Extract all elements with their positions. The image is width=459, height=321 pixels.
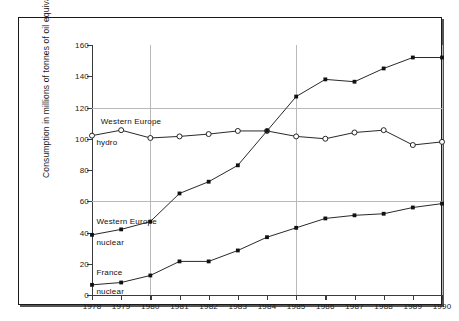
data-point-filled-square bbox=[265, 235, 269, 239]
x-tick-label: 1983 bbox=[229, 302, 248, 311]
y-tick-label: 100 bbox=[75, 134, 89, 143]
x-tick-mark bbox=[267, 295, 268, 300]
data-point-filled-square bbox=[119, 227, 123, 231]
x-tick-label: 1988 bbox=[374, 302, 393, 311]
data-point-filled-square bbox=[119, 281, 123, 285]
x-tick-label: 1989 bbox=[404, 302, 423, 311]
data-point-open-circle bbox=[410, 143, 415, 148]
data-point-filled-square bbox=[411, 56, 415, 60]
x-tick-label: 1990 bbox=[433, 302, 452, 311]
chart-screenshot: Consumption in millions of tonnes of oil… bbox=[0, 0, 459, 321]
data-point-filled-square bbox=[440, 56, 444, 60]
data-point-open-circle bbox=[206, 132, 211, 137]
data-point-filled-square bbox=[382, 67, 386, 71]
data-point-open-circle bbox=[177, 134, 182, 139]
data-point-filled-square bbox=[294, 95, 298, 99]
data-point-filled-square bbox=[178, 260, 182, 264]
data-point-filled-square bbox=[323, 217, 327, 221]
ann-fr-nuclear-line2: nuclear bbox=[96, 287, 124, 296]
data-point-filled-square bbox=[353, 80, 357, 84]
x-tick-label: 1978 bbox=[83, 302, 102, 311]
y-tick-label: 120 bbox=[75, 103, 89, 112]
series-france-nuclear bbox=[90, 202, 444, 287]
data-point-filled-square bbox=[353, 213, 357, 217]
x-tick-mark bbox=[355, 295, 356, 300]
plot-area: 020406080100120140160 197819791980198119… bbox=[92, 45, 442, 295]
data-point-open-circle bbox=[440, 139, 445, 144]
ann-we-hydro-line1: Western Europe bbox=[101, 117, 161, 126]
x-tick-mark bbox=[413, 295, 414, 300]
y-tick-label: 20 bbox=[80, 259, 89, 268]
figure-frame: Consumption in millions of tonnes of oil… bbox=[18, 17, 442, 305]
y-tick-label: 80 bbox=[80, 166, 89, 175]
x-tick-label: 1981 bbox=[170, 302, 189, 311]
x-tick-mark bbox=[325, 295, 326, 300]
data-point-filled-square bbox=[207, 180, 211, 184]
data-point-open-circle bbox=[90, 133, 95, 138]
series-western-europe-nuclear bbox=[90, 56, 444, 237]
data-point-filled-square bbox=[90, 283, 94, 287]
data-point-filled-square bbox=[440, 202, 444, 206]
data-series-layer bbox=[92, 45, 442, 295]
x-tick-label: 1979 bbox=[112, 302, 131, 311]
x-tick-mark bbox=[296, 295, 297, 300]
data-point-filled-square bbox=[148, 274, 152, 278]
data-point-filled-square bbox=[294, 226, 298, 230]
data-point-filled-square bbox=[236, 249, 240, 253]
data-point-filled-square bbox=[411, 206, 415, 210]
y-tick-label: 0 bbox=[84, 291, 89, 300]
ann-fr-nuclear-line1: France bbox=[96, 268, 122, 277]
x-tick-mark bbox=[92, 295, 93, 300]
data-point-open-circle bbox=[352, 130, 357, 135]
data-point-filled-square bbox=[236, 163, 240, 167]
data-point-open-circle bbox=[294, 134, 299, 139]
y-tick-label: 40 bbox=[80, 228, 89, 237]
x-tick-label: 1986 bbox=[316, 302, 335, 311]
y-tick-label: 60 bbox=[80, 197, 89, 206]
data-point-filled-square bbox=[207, 260, 211, 264]
x-tick-mark bbox=[442, 295, 443, 300]
x-tick-mark bbox=[150, 295, 151, 300]
ann-we-hydro-line2: hydro bbox=[96, 138, 117, 147]
data-point-open-circle bbox=[119, 128, 124, 133]
x-tick-mark bbox=[384, 295, 385, 300]
data-point-open-circle bbox=[148, 135, 153, 140]
data-point-filled-square bbox=[178, 192, 182, 196]
ann-we-nuclear-line1: Western Europe bbox=[96, 217, 156, 226]
data-point-open-circle bbox=[323, 136, 328, 141]
gridline-vertical bbox=[442, 45, 443, 295]
x-tick-mark bbox=[180, 295, 181, 300]
x-tick-label: 1987 bbox=[345, 302, 364, 311]
data-point-filled-square bbox=[265, 129, 269, 133]
data-point-open-circle bbox=[381, 128, 386, 133]
y-axis-title: Consumption in millions of tonnes of oil… bbox=[41, 0, 51, 178]
x-tick-label: 1980 bbox=[141, 302, 160, 311]
x-tick-label: 1982 bbox=[199, 302, 218, 311]
data-point-filled-square bbox=[90, 233, 94, 237]
data-point-filled-square bbox=[382, 212, 386, 216]
series-line bbox=[92, 58, 442, 235]
x-tick-label: 1984 bbox=[258, 302, 277, 311]
y-tick-label: 160 bbox=[75, 41, 89, 50]
y-tick-label: 140 bbox=[75, 72, 89, 81]
x-tick-label: 1985 bbox=[287, 302, 306, 311]
data-point-filled-square bbox=[323, 77, 327, 81]
data-point-open-circle bbox=[235, 128, 240, 133]
x-tick-mark bbox=[209, 295, 210, 300]
x-tick-mark bbox=[238, 295, 239, 300]
ann-we-nuclear-line2: nuclear bbox=[96, 238, 124, 247]
